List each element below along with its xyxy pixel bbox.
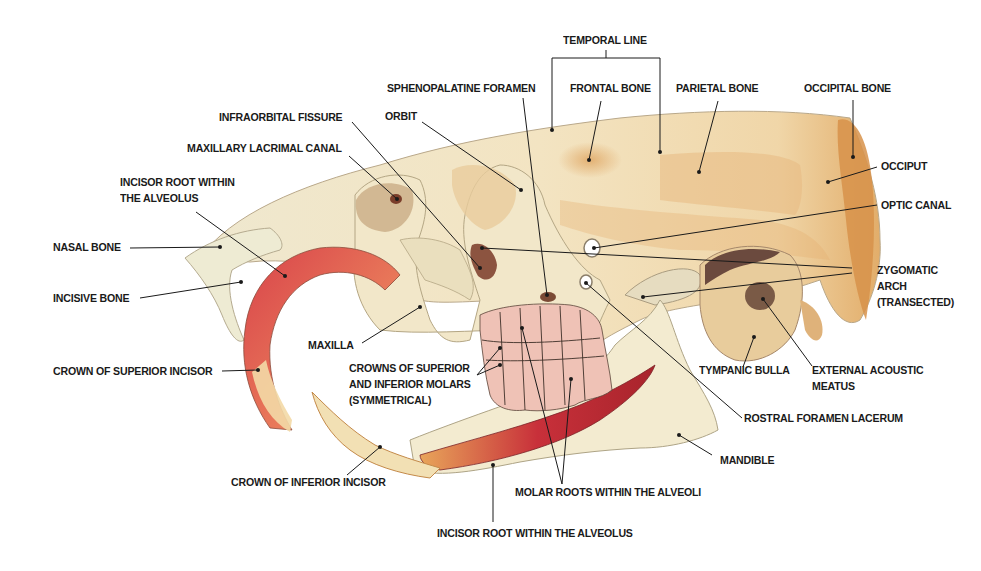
label-crown-inferior-incisor: CROWN OF INFERIOR INCISOR (231, 474, 386, 490)
label-zygomatic-arch: ZYGOMATIC ARCH (TRANSECTED) (877, 262, 954, 310)
label-crown-superior-incisor: CROWN OF SUPERIOR INCISOR (53, 363, 212, 379)
label-crowns-molars: CROWNS OF SUPERIOR AND INFERIOR MOLARS (… (349, 360, 471, 408)
label-external-acoustic-meatus: EXTERNAL ACOUSTIC MEATUS (812, 362, 924, 394)
label-infraorbital-fissure: INFRAORBITAL FISSURE (219, 109, 342, 125)
label-occipital-bone: OCCIPITAL BONE (804, 80, 891, 96)
label-mandible: MANDIBLE (720, 452, 774, 468)
label-frontal-bone: FRONTAL BONE (570, 80, 651, 96)
label-optic-canal: OPTIC CANAL (881, 197, 951, 213)
skull-diagram: TEMPORAL LINE SPHENOPALATINE FORAMEN FRO… (0, 0, 981, 571)
label-parietal-bone: PARIETAL BONE (676, 80, 758, 96)
label-temporal-line: TEMPORAL LINE (563, 32, 647, 48)
label-molar-roots: MOLAR ROOTS WITHIN THE ALVEOLI (515, 484, 701, 500)
molars (480, 304, 612, 411)
label-tympanic-bulla: TYMPANIC BULLA (699, 362, 790, 378)
label-incisor-root-upper: INCISOR ROOT WITHIN THE ALVEOLUS (120, 174, 235, 206)
label-maxilla: MAXILLA (308, 337, 354, 353)
label-incisor-root-lower: INCISOR ROOT WITHIN THE ALVEOLUS (437, 525, 633, 541)
label-nasal-bone: NASAL BONE (53, 239, 121, 255)
label-incisive-bone: INCISIVE BONE (53, 290, 129, 306)
label-maxillary-lacrimal-canal: MAXILLARY LACRIMAL CANAL (187, 140, 342, 156)
label-sphenopalatine-foramen: SPHENOPALATINE FORAMEN (387, 80, 535, 96)
label-rostral-foramen-lacerum: ROSTRAL FORAMEN LACERUM (744, 410, 903, 426)
label-orbit: ORBIT (385, 108, 417, 124)
label-occiput: OCCIPUT (881, 158, 927, 174)
